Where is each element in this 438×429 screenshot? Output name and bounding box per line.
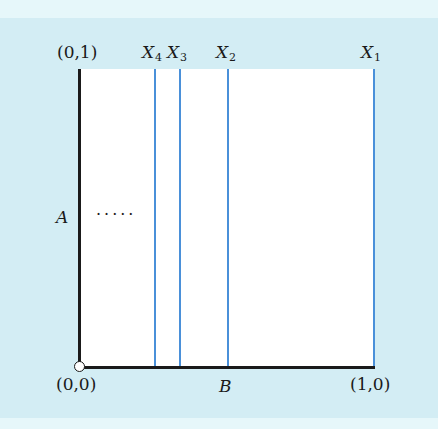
label-x4: X4 <box>142 42 162 64</box>
origin-open-circle <box>74 361 85 372</box>
bottom-band <box>0 418 438 429</box>
axis-label-b: B <box>219 376 232 396</box>
ellipsis: ····· <box>96 205 136 224</box>
label-top-left: (0,1) <box>57 42 97 62</box>
label-origin: (0,0) <box>56 374 96 394</box>
top-band <box>0 0 438 18</box>
partition-line-x3 <box>179 69 181 367</box>
label-x2: X2 <box>216 42 236 64</box>
partition-line-x1 <box>373 69 375 367</box>
partition-line-x2 <box>227 69 229 367</box>
y-axis <box>78 69 81 368</box>
axis-label-a: A <box>56 207 68 227</box>
label-x3: X3 <box>167 42 187 64</box>
label-x1: X1 <box>361 42 381 64</box>
partition-line-x4 <box>154 69 156 367</box>
label-bottom-right: (1,0) <box>350 374 390 394</box>
x-axis <box>78 366 375 369</box>
